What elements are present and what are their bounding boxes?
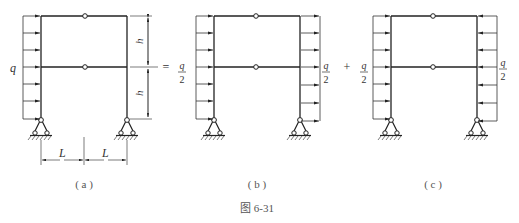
frame-a: q h h L L ( a )	[10, 14, 158, 191]
span-dimension	[41, 137, 127, 165]
equals-sign: =	[163, 60, 170, 74]
svg-text:2: 2	[324, 74, 329, 85]
subfigure-label-c: ( c )	[424, 178, 442, 191]
left-distributed-load	[196, 16, 213, 119]
pin-support-icon	[114, 118, 138, 140]
subfigure-label-a: ( a )	[75, 178, 93, 191]
load-label: q	[10, 61, 16, 75]
svg-text:2: 2	[362, 74, 367, 85]
frame-b: q 2 q 2 ( b )	[178, 14, 330, 191]
pin-support-icon	[378, 118, 402, 140]
svg-text:2: 2	[501, 71, 506, 82]
pin-support-icon	[28, 118, 52, 140]
structural-diagram: q h h L L ( a ) =	[0, 0, 519, 223]
left-load-label: q 2	[178, 60, 186, 85]
hinge-icon	[431, 65, 436, 70]
right-distributed-load	[478, 16, 497, 121]
hinge-icon	[83, 14, 88, 19]
figure-caption: 图 6-31	[240, 202, 274, 214]
height-dimension	[130, 16, 158, 119]
distributed-load	[23, 16, 40, 119]
right-load-label: q 2	[322, 60, 330, 85]
svg-text:q: q	[501, 57, 506, 68]
dim-h-bottom: h	[133, 90, 145, 96]
svg-text:q: q	[362, 60, 367, 71]
frame-c: q 2 q 2 ( c )	[360, 14, 507, 191]
dim-L-right: L	[101, 146, 109, 160]
plus-sign: +	[344, 60, 351, 74]
right-distributed-load	[301, 16, 320, 121]
hinge-icon	[254, 65, 259, 70]
svg-text:2: 2	[180, 74, 185, 85]
hinge-icon	[83, 65, 88, 70]
pin-support-icon	[201, 118, 225, 140]
hinge-icon	[431, 14, 436, 19]
svg-text:q: q	[324, 60, 329, 71]
hinge-icon	[254, 14, 259, 19]
subfigure-label-b: ( b )	[248, 178, 267, 191]
dim-L-left: L	[58, 146, 66, 160]
dim-h-top: h	[133, 38, 145, 44]
left-load-label: q 2	[360, 60, 368, 85]
left-distributed-load	[373, 16, 390, 119]
svg-text:q: q	[180, 60, 185, 71]
right-load-label: q 2	[499, 57, 507, 82]
